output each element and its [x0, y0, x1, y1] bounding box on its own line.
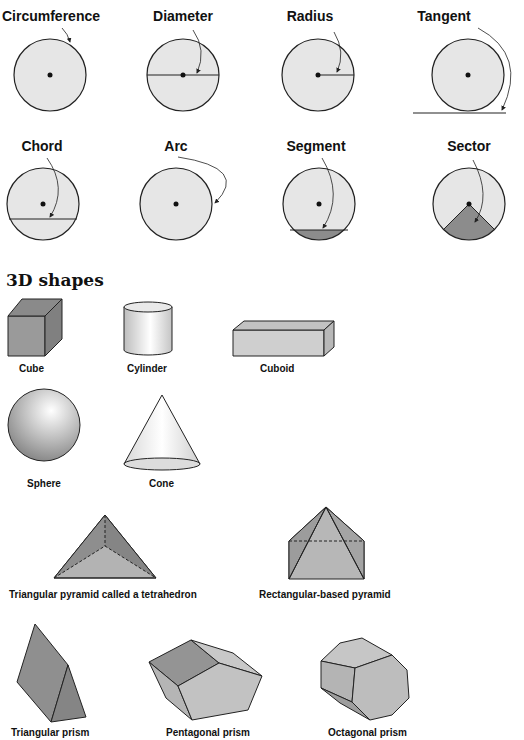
sector-figure	[433, 160, 505, 244]
label-pentagonal-prism: Pentagonal prism	[166, 727, 250, 738]
section-title-3d-shapes: 3D shapes	[6, 270, 104, 290]
label-cone: Cone	[149, 478, 174, 489]
radius-figure	[282, 32, 354, 111]
triangular-prism-figure	[17, 624, 86, 722]
sphere-figure	[8, 389, 80, 461]
diameter-figure	[147, 30, 219, 111]
label-octagonal-prism: Octagonal prism	[328, 727, 407, 738]
label-cylinder: Cylinder	[127, 363, 167, 374]
octagonal-prism-figure	[321, 638, 409, 720]
label-rectangular-pyramid: Rectangular-based pyramid	[259, 589, 391, 600]
cone-figure	[124, 395, 200, 470]
label-tetrahedron: Triangular pyramid called a tetrahedron	[9, 589, 197, 600]
label-triangular-prism: Triangular prism	[11, 727, 89, 738]
cuboid-figure	[233, 321, 334, 356]
cube-figure	[8, 299, 62, 356]
label-sphere: Sphere	[27, 478, 61, 489]
pentagonal-prism-figure	[149, 640, 262, 720]
tangent-figure	[413, 28, 511, 113]
segment-figure	[280, 158, 360, 250]
arc-figure	[140, 157, 226, 240]
tetrahedron-figure	[54, 515, 156, 578]
circumference-figure	[14, 28, 86, 111]
label-cube: Cube	[19, 363, 44, 374]
chord-figure	[7, 158, 79, 240]
cylinder-figure	[124, 302, 172, 355]
label-cuboid: Cuboid	[260, 363, 294, 374]
rectangular-pyramid-figure	[289, 507, 364, 579]
